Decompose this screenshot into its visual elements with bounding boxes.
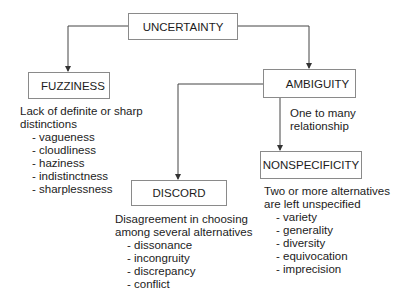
node-ambiguity: AMBIGUITY (263, 69, 356, 98)
list-item: - incongruity (127, 252, 252, 265)
discord-desc-line: Disagreement in choosing (115, 213, 252, 226)
list-item: - equivocation (276, 250, 390, 263)
node-discord-label: DISCORD (152, 187, 205, 199)
edge-label-line: One to many (290, 107, 356, 120)
list-item: - imprecision (276, 263, 390, 276)
node-uncertainty-label: UNCERTAINTY (143, 21, 224, 33)
edge-label-line: relationship (290, 120, 356, 133)
discord-desc-line: among several alternatives (115, 226, 252, 239)
node-nonspecificity: NONSPECIFICITY (260, 151, 362, 179)
nonspecificity-desc-line: are left unspecified (264, 198, 390, 211)
node-nonspecificity-label: NONSPECIFICITY (263, 159, 359, 171)
fuzziness-desc-line: Lack of definite or sharp (20, 105, 143, 118)
list-item: - discrepancy (127, 265, 252, 278)
list-item: - generality (276, 224, 390, 237)
nonspecificity-description: Two or more alternatives are left unspec… (264, 185, 390, 276)
nonspecificity-items: - variety - generality - diversity - equ… (264, 211, 390, 276)
edge-ambiguity-discord (178, 84, 263, 179)
list-item: - conflict (127, 278, 252, 291)
ambiguity-edge-label: One to many relationship (290, 107, 356, 133)
discord-description: Disagreement in choosing among several a… (115, 213, 252, 291)
list-item: - sharplessness (32, 183, 143, 196)
node-discord: DISCORD (131, 180, 227, 206)
discord-items: - dissonance - incongruity - discrepancy… (115, 239, 252, 291)
fuzziness-items: - vagueness - cloudliness - haziness - i… (20, 131, 143, 196)
fuzziness-description: Lack of definite or sharp distinctions -… (20, 105, 143, 196)
list-item: - haziness (32, 157, 143, 170)
node-uncertainty: UNCERTAINTY (128, 13, 238, 40)
node-fuzziness-label: FUZZINESS (41, 80, 105, 92)
list-item: - variety (276, 211, 390, 224)
list-item: - diversity (276, 237, 390, 250)
fuzziness-desc-line: distinctions (20, 118, 143, 131)
edge-uncertainty-ambiguity (237, 26, 309, 68)
list-item: - dissonance (127, 239, 252, 252)
list-item: - cloudliness (32, 144, 143, 157)
node-fuzziness: FUZZINESS (28, 72, 110, 99)
list-item: - vagueness (32, 131, 143, 144)
nonspecificity-desc-line: Two or more alternatives (264, 185, 390, 198)
list-item: - indistinctness (32, 170, 143, 183)
node-ambiguity-label: AMBIGUITY (286, 78, 349, 90)
edge-uncertainty-fuzziness (68, 26, 128, 71)
